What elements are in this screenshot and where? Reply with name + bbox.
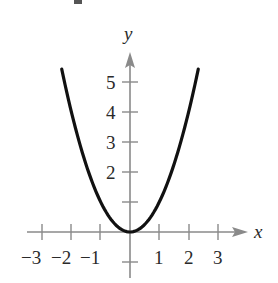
x-tick-label: 3 — [213, 247, 223, 268]
x-tick-label: 2 — [184, 247, 194, 268]
parabola-chart: x −3 −2 −1 1 2 3 y 5 4 3 2 — [0, 0, 278, 283]
x-tick-label: 1 — [154, 247, 164, 268]
y-tick-label: 4 — [106, 102, 116, 123]
x-tick-label: −3 — [21, 247, 41, 268]
y-axis: y 5 4 3 2 — [106, 23, 138, 278]
y-tick-label: 5 — [106, 72, 116, 93]
x-tick-label: −2 — [51, 247, 71, 268]
x-axis-label: x — [253, 221, 263, 242]
y-tick-label: 2 — [106, 162, 116, 183]
y-axis-label: y — [122, 23, 133, 44]
cropped-caption-fragment — [74, 0, 82, 4]
x-tick-label: −1 — [80, 247, 100, 268]
y-tick-label: 3 — [106, 132, 116, 153]
